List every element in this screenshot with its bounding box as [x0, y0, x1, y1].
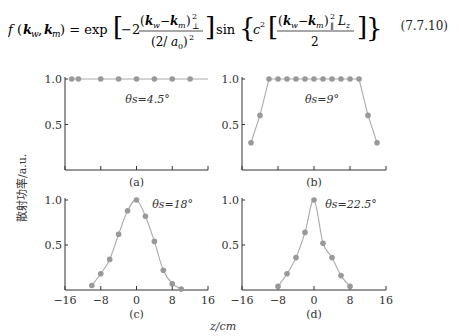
- y-tick-label: 1.0: [45, 73, 63, 86]
- x-tick-label: −16: [230, 294, 253, 307]
- data-point: [347, 76, 353, 82]
- data-point: [365, 113, 371, 119]
- data-point: [266, 76, 272, 82]
- data-point: [293, 76, 299, 82]
- data-point: [76, 76, 82, 82]
- data-point: [329, 255, 335, 261]
- data-point: [284, 271, 290, 277]
- x-tick-label: −8: [270, 294, 286, 307]
- data-point: [107, 257, 113, 263]
- figure-scattering-power: 散射功率/a.u. 1.00.5θs=4.5°(a)1.00.5θs=9°(b)…: [0, 0, 459, 336]
- data-point: [293, 255, 299, 261]
- data-point: [169, 281, 175, 287]
- panel-label: (d): [306, 308, 322, 321]
- panel-label: (a): [129, 176, 144, 189]
- data-point: [311, 76, 317, 82]
- x-tick-label: 16: [201, 294, 215, 307]
- data-point: [89, 283, 95, 289]
- y-axis-label: 散射功率/a.u.: [15, 154, 29, 222]
- y-tick-label: 0.5: [222, 239, 240, 252]
- data-point: [169, 76, 175, 82]
- data-point: [178, 286, 184, 292]
- x-tick-label: 0: [133, 294, 140, 307]
- y-tick-label: 1.0: [222, 73, 240, 86]
- data-point: [338, 76, 344, 82]
- data-point: [257, 113, 263, 119]
- data-point: [69, 76, 75, 82]
- data-point: [134, 197, 140, 203]
- panel-d: 1.00.5−16−80816θs=22.5°(d): [222, 194, 394, 321]
- data-point: [187, 76, 193, 82]
- data-point: [284, 76, 290, 82]
- data-point: [116, 76, 122, 82]
- panel-b: 1.00.5θs=9°(b): [222, 73, 387, 189]
- data-point: [320, 76, 326, 82]
- data-point: [347, 284, 353, 290]
- angle-annotation: θs=9°: [305, 93, 339, 106]
- data-point: [125, 208, 131, 214]
- data-point: [275, 284, 281, 290]
- data-point: [152, 239, 158, 245]
- fit-curve: [251, 79, 377, 143]
- angle-annotation: θs=22.5°: [325, 198, 376, 211]
- angle-annotation: θs=18°: [152, 198, 193, 211]
- data-point: [302, 76, 308, 82]
- data-point: [143, 213, 149, 219]
- y-tick-label: 1.0: [45, 194, 63, 207]
- x-tick-label: −8: [93, 294, 109, 307]
- data-point: [338, 273, 344, 279]
- panel-a: 1.00.5θs=4.5°(a): [45, 73, 209, 189]
- x-tick-label: 16: [379, 294, 393, 307]
- x-tick-label: 8: [169, 294, 176, 307]
- fit-curve: [92, 200, 181, 289]
- y-tick-label: 1.0: [222, 194, 240, 207]
- panel-c: 1.00.5−16−80816θs=18°(c): [45, 194, 216, 321]
- data-point: [152, 76, 158, 82]
- data-point: [98, 271, 104, 277]
- data-point: [275, 76, 281, 82]
- x-tick-label: −16: [53, 294, 76, 307]
- data-point: [311, 197, 317, 203]
- y-tick-label: 0.5: [45, 119, 63, 132]
- x-tick-label: 8: [347, 294, 354, 307]
- data-point: [356, 76, 362, 82]
- data-point: [98, 76, 104, 82]
- y-tick-label: 0.5: [222, 119, 240, 132]
- data-point: [329, 76, 335, 82]
- data-point: [374, 140, 380, 146]
- data-point: [248, 140, 254, 146]
- data-point: [134, 76, 140, 82]
- panel-label: (b): [306, 176, 322, 189]
- data-point: [161, 267, 167, 273]
- x-axis-label: z/cm: [209, 320, 236, 333]
- data-point: [320, 240, 326, 246]
- panel-label: (c): [129, 308, 144, 321]
- angle-annotation: θs=4.5°: [125, 93, 169, 106]
- y-tick-label: 0.5: [45, 239, 63, 252]
- data-point: [302, 230, 308, 236]
- data-point: [116, 231, 122, 237]
- x-tick-label: 0: [311, 294, 318, 307]
